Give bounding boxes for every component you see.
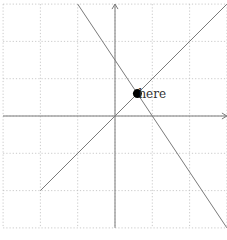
point-label: here	[138, 87, 166, 101]
point-group: here	[133, 87, 166, 101]
coordinate-diagram: here	[0, 0, 227, 240]
line-y-equals-x	[40, 4, 227, 191]
